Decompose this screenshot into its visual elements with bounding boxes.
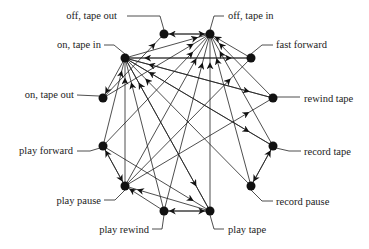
state-node-play_forward [99,142,108,151]
edge-on_tape_in-to-rewind_tape [125,58,273,98]
leader-line-off_tape_out [127,16,164,30]
state-label-rewind_tape: rewind tape [304,93,354,104]
edge-rewind_tape-to-off_tape_in [210,34,273,98]
state-label-play_pause: play pause [56,195,101,206]
state-label-play_tape: play tape [228,224,267,235]
leader-line-on_tape_in [104,45,125,54]
state-label-off_tape_out: off, tape out [66,10,117,21]
edge-play_forward-to-on_tape_in [103,58,125,146]
state-node-rewind_tape [269,94,278,103]
state-label-play_forward: play forward [19,145,74,156]
leader-line-play_tape [210,215,224,229]
state-node-record_tape [269,142,278,151]
edge-on_tape_in-to-off_tape_in [125,34,210,58]
state-node-fast_forward [247,54,256,63]
leader-line-fast_forward [251,45,273,54]
state-node-off_tape_in [206,30,215,39]
state-node-off_tape_out [160,30,169,39]
state-node-play_tape [206,207,215,216]
leader-line-play_rewind [152,215,164,229]
state-label-on_tape_in: on, tape in [57,39,102,50]
state-node-record_pause [247,182,256,191]
state-label-record_tape: record tape [304,146,351,157]
leader-line-record_tape [276,148,301,151]
edge-play_rewind-to-play_pause [125,186,164,211]
edge-play_forward-to-play_tape [103,146,210,211]
leader-line-off_tape_in [210,16,224,30]
edge-record_pause-to-record_tape [251,146,273,186]
leader-line-play_pause [104,190,125,200]
edge-on_tape_in-to-play_tape [125,58,210,211]
vcr-state-diagram: off, tape outoff, tape inon, tape infast… [0,0,369,249]
labels-layer: off, tape outoff, tape inon, tape infast… [19,10,354,235]
edge-record_pause-to-off_tape_in [210,34,251,186]
state-label-on_tape_out: on, tape out [25,89,74,100]
state-node-on_tape_in [121,54,130,63]
state-label-fast_forward: fast forward [276,39,328,50]
state-node-play_pause [121,182,130,191]
edge-play_tape-to-play_pause [125,186,210,211]
state-node-play_rewind [160,207,169,216]
edge-play_pause-to-play_forward [103,146,125,186]
leader-line-on_tape_out [77,95,99,96]
leader-line-record_pause [251,190,273,201]
leader-line-play_forward [77,148,100,151]
state-label-record_pause: record pause [276,196,330,207]
state-node-on_tape_out [99,94,108,103]
edge-on_tape_out-to-off_tape_in [103,34,210,98]
state-label-play_rewind: play rewind [99,224,150,235]
state-label-off_tape_in: off, tape in [228,10,274,21]
